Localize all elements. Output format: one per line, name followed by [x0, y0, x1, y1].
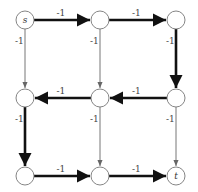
node-label: s: [23, 15, 28, 25]
graph-diagram: -1-1-1-1-1-1-1-1-1-1-1-1 st: [0, 0, 198, 192]
node-n10: [16, 89, 34, 107]
node-n20: [16, 167, 34, 185]
node-circle: [16, 89, 34, 107]
edge-weight-label: -1: [57, 164, 66, 174]
node-circle: [91, 89, 109, 107]
node-n21: [91, 167, 109, 185]
edge-weight-label: -1: [132, 164, 141, 174]
node-s: s: [16, 11, 34, 29]
edge-weight-label: -1: [132, 86, 141, 96]
node-circle: [167, 11, 185, 29]
edge-weight-label: -1: [90, 114, 99, 124]
edge-weight-label: -1: [132, 8, 141, 18]
edge-weight-label: -1: [57, 8, 66, 18]
node-n02: [167, 11, 185, 29]
node-circle: [91, 167, 109, 185]
node-n01: [91, 11, 109, 29]
node-label: t: [174, 171, 178, 181]
node-n11: [91, 89, 109, 107]
node-circle: [167, 89, 185, 107]
edge-weight-label: -1: [15, 36, 24, 46]
edge-weight-label: -1: [166, 114, 175, 124]
node-circle: [91, 11, 109, 29]
edge-weight-label: -1: [90, 36, 99, 46]
node-circle: [16, 167, 34, 185]
edge-weight-label: -1: [15, 114, 24, 124]
edge-weight-label: -1: [166, 36, 175, 46]
node-n12: [167, 89, 185, 107]
node-t: t: [167, 167, 185, 185]
edge-weight-label: -1: [57, 86, 66, 96]
